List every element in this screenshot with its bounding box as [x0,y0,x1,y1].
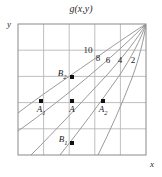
data-point-marker-a2 [101,99,105,103]
contour-level-label: 2 [131,55,136,65]
contour-level-label: 10 [84,45,93,55]
contour-level-label: 8 [96,53,101,63]
contour-level-label: 6 [106,55,111,65]
data-point-marker-b2 [70,75,74,79]
data-point-label-a: A [69,104,75,114]
contour-plot-figure: g(x,y) y x 108642 A1AA2B2B1 [0,0,162,177]
data-point-label-a2: A2 [99,104,108,116]
data-point-label-a1: A1 [37,104,46,116]
data-point-marker-a1 [39,99,43,103]
data-point-marker-b1 [70,141,74,145]
data-point-label-b1: B1 [59,134,68,146]
plot-area [0,0,162,177]
data-point-marker-a [70,99,74,103]
contour-level-label: 4 [118,55,123,65]
plot-background [18,24,146,155]
data-point-label-b2: B2 [58,68,67,80]
